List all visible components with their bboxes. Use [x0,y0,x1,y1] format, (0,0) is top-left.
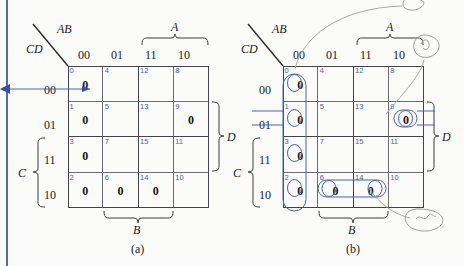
panel-a-col-header-3: 10 [178,48,190,63]
panel-a-bracket-A [141,34,209,46]
kmap-cell-value-11 [174,137,208,172]
kmap-cell-13[interactable]: 13 [139,102,174,138]
kmap-cell-11[interactable]: 11 [174,137,209,173]
kmap-cell-value-7 [318,137,352,172]
kmap-cell-2[interactable]: 20 [283,173,318,209]
panel-a-bracket-D [211,101,225,173]
panel-a-row-header-0: 00 [44,83,56,98]
panel-b-caption: (b) [346,242,360,257]
kmap-cell-value-9: 0 [389,102,423,137]
panel-b-label-A: A [386,20,393,35]
kmap-cell-value-4 [318,66,352,101]
figure-canvas: AB CD A 00 01 11 10 00 01 11 10 00412810… [0,0,464,266]
kmap-cell-4[interactable]: 4 [103,66,138,102]
panel-a-cd-label: CD [26,42,43,57]
panel-b-label-C: C [233,166,241,181]
kmap-cell-8[interactable]: 8 [389,66,424,102]
kmap-cell-7[interactable]: 7 [318,137,353,173]
kmap-cell-15[interactable]: 15 [139,137,174,173]
kmap-cell-12[interactable]: 12 [354,66,389,102]
kmap-cell-value-5 [318,102,352,137]
kmap-cell-7[interactable]: 7 [103,137,138,173]
kmap-cell-value-1: 0 [68,102,102,137]
panel-a-label-A: A [171,20,178,35]
kmap-cell-4[interactable]: 4 [318,66,353,102]
kmap-cell-value-4 [103,66,137,101]
panel-b-label-D: D [442,130,451,145]
panel-b-bracket-D [426,101,440,173]
kmap-cell-1[interactable]: 10 [283,102,318,138]
kmap-cell-value-3: 0 [68,137,102,172]
panel-a-ab-label: AB [57,22,72,37]
panel-a-label-C: C [18,166,26,181]
panel-a-label-D: D [227,130,236,145]
kmap-cell-value-14: 0 [354,173,388,208]
panel-b-col-header-2: 11 [360,48,372,63]
kmap-cell-value-13 [354,102,388,137]
kmap-cell-value-15 [139,137,173,172]
kmap-cell-1[interactable]: 10 [68,102,103,138]
panel-a-col-header-0: 00 [78,48,90,63]
kmap-cell-0[interactable]: 00 [68,66,103,102]
kmap-cell-value-3: 0 [283,137,317,172]
kmap-cell-value-10 [389,173,423,208]
kmap-cell-value-11 [389,137,423,172]
page-edge-rule [6,0,8,266]
kmap-cell-value-6: 0 [103,173,137,208]
panel-a-col-header-1: 01 [111,48,123,63]
panel-a-row-header-1: 01 [44,118,56,133]
kmap-cell-value-15 [354,137,388,172]
panel-b-bracket-C [247,137,261,209]
kmap-cell-5[interactable]: 5 [318,102,353,138]
kmap-cell-10[interactable]: 10 [174,173,209,209]
kmap-cell-3[interactable]: 30 [283,137,318,173]
kmap-cell-6[interactable]: 60 [318,173,353,209]
kmap-cell-10[interactable]: 10 [389,173,424,209]
panel-b-col-header-1: 01 [326,48,338,63]
panel-a-kmap-grid[interactable]: 00412810513903071511206014010 [68,66,209,208]
panel-b-col-header-0: 00 [293,48,305,63]
kmap-cell-value-12 [354,66,388,101]
panel-b-bracket-A [356,34,424,46]
kmap-cell-12[interactable]: 12 [139,66,174,102]
kmap-cell-value-0: 0 [283,66,317,101]
kmap-cell-value-2: 0 [68,173,102,208]
kmap-cell-14[interactable]: 140 [354,173,389,209]
kmap-cell-value-6: 0 [318,173,352,208]
kmap-cell-value-9: 0 [174,102,208,137]
kmap-cell-2[interactable]: 20 [68,173,103,209]
kmap-cell-13[interactable]: 13 [354,102,389,138]
panel-a-bracket-C [32,137,46,209]
kmap-cell-6[interactable]: 60 [103,173,138,209]
panel-a-label-B: B [133,223,140,238]
kmap-cell-15[interactable]: 15 [354,137,389,173]
kmap-cell-value-10 [174,173,208,208]
kmap-cell-9[interactable]: 90 [174,102,209,138]
kmap-cell-14[interactable]: 140 [139,173,174,209]
kmap-cell-11[interactable]: 11 [389,137,424,173]
kmap-cell-value-8 [174,66,208,101]
kmap-cell-value-13 [139,102,173,137]
kmap-cell-value-8 [389,66,423,101]
panel-a-caption: (a) [131,242,144,257]
kmap-cell-value-7 [103,137,137,172]
kmap-cell-9[interactable]: 90 [389,102,424,138]
panel-b-row-header-1: 01 [259,118,271,133]
kmap-cell-value-14: 0 [139,173,173,208]
panel-b-kmap-grid[interactable]: 00412810513903071511206014010 [283,66,424,208]
kmap-cell-0[interactable]: 00 [283,66,318,102]
kmap-cell-3[interactable]: 30 [68,137,103,173]
kmap-cell-value-0: 0 [68,66,102,101]
panel-b-row-header-0: 00 [259,83,271,98]
kmap-cell-value-2: 0 [283,173,317,208]
kmap-cell-value-12 [139,66,173,101]
kmap-cell-8[interactable]: 8 [174,66,209,102]
kmap-cell-5[interactable]: 5 [103,102,138,138]
kmap-cell-value-5 [103,102,137,137]
panel-b-col-header-3: 10 [393,48,405,63]
kmap-cell-value-1: 0 [283,102,317,137]
panel-b-cd-label: CD [241,42,258,57]
panel-b-label-B: B [348,223,355,238]
panel-a-col-header-2: 11 [145,48,157,63]
panel-b-ab-label: AB [272,22,287,37]
